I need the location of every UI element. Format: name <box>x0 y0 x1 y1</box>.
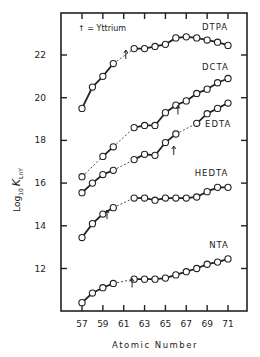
x-tick-label: 67 <box>181 319 192 329</box>
data-marker <box>152 152 158 158</box>
data-marker <box>183 98 189 104</box>
series-line <box>134 37 228 49</box>
series-line <box>134 259 228 279</box>
x-tick-label: 69 <box>201 319 213 329</box>
data-marker <box>173 35 179 41</box>
data-marker <box>131 124 137 130</box>
data-marker <box>152 122 158 128</box>
data-marker <box>194 35 200 41</box>
data-marker <box>100 153 106 159</box>
data-marker <box>204 111 210 117</box>
data-marker <box>225 100 231 106</box>
y-tick-label: 22 <box>35 50 46 60</box>
data-marker <box>214 184 220 190</box>
y-tick-label: 20 <box>35 93 47 103</box>
data-marker <box>79 300 85 306</box>
plot-border <box>61 13 247 311</box>
data-marker <box>141 45 147 51</box>
yttrium-legend-note: ↑ = Yttrium <box>78 24 126 33</box>
series-group: DTPADCTAEDTAHEDTANTA <box>79 22 231 305</box>
data-marker <box>89 84 95 90</box>
data-marker <box>131 157 137 163</box>
x-tick-label: 61 <box>118 319 129 329</box>
data-marker <box>214 80 220 86</box>
dashed-bridge <box>113 49 134 64</box>
data-marker <box>162 195 168 201</box>
plot-frame <box>61 13 247 311</box>
series-label-dcta: DCTA <box>202 62 229 72</box>
data-marker <box>194 194 200 200</box>
data-marker <box>162 275 168 281</box>
series-edta: EDTA <box>79 100 231 196</box>
x-tick-label: 65 <box>160 319 171 329</box>
data-marker <box>100 285 106 291</box>
data-marker <box>110 280 116 286</box>
data-marker <box>89 221 95 227</box>
dashed-bridge <box>113 128 134 147</box>
data-marker <box>79 190 85 196</box>
data-marker <box>204 261 210 267</box>
data-marker <box>110 60 116 66</box>
y-tick-label: 12 <box>35 264 46 274</box>
data-marker <box>173 131 179 137</box>
data-marker <box>162 41 168 47</box>
data-marker <box>194 265 200 271</box>
data-marker <box>79 105 85 111</box>
data-marker <box>100 211 106 217</box>
y-tick-label: 16 <box>35 178 47 188</box>
y-tick-label: 14 <box>35 221 47 231</box>
series-label-nta: NTA <box>209 240 229 250</box>
y-tick-label: 18 <box>35 135 47 145</box>
data-marker <box>214 39 220 45</box>
data-marker <box>162 110 168 116</box>
x-axis-title: Atomic Number <box>112 340 198 350</box>
x-tick-label: 63 <box>139 319 150 329</box>
series-label-edta: EDTA <box>205 119 231 129</box>
data-marker <box>110 205 116 211</box>
data-marker <box>183 195 189 201</box>
series-line <box>82 64 113 109</box>
data-marker <box>194 120 200 126</box>
data-marker <box>225 184 231 190</box>
data-marker <box>214 105 220 111</box>
series-line <box>134 187 228 200</box>
data-marker <box>100 171 106 177</box>
data-marker <box>141 276 147 282</box>
y-axis-title: Log10KLnY <box>10 168 24 212</box>
data-marker <box>141 195 147 201</box>
data-marker <box>194 90 200 96</box>
series-hedta: HEDTA <box>79 168 231 241</box>
data-marker <box>204 86 210 92</box>
data-marker <box>225 75 231 81</box>
x-tick-label: 59 <box>97 319 109 329</box>
data-marker <box>173 272 179 278</box>
data-marker <box>131 45 137 51</box>
data-marker <box>79 174 85 180</box>
series-line <box>82 283 113 302</box>
series-line <box>82 170 113 192</box>
data-marker <box>204 37 210 43</box>
data-marker <box>141 122 147 128</box>
data-marker <box>183 34 189 40</box>
data-marker <box>141 151 147 157</box>
series-nta: NTA <box>79 240 231 306</box>
data-marker <box>204 189 210 195</box>
x-tick-label: 57 <box>76 319 87 329</box>
data-marker <box>110 144 116 150</box>
chart-figure: 121416182022 5759616365676971 DTPADCTAED… <box>0 0 260 357</box>
data-marker <box>152 276 158 282</box>
data-marker <box>89 180 95 186</box>
data-marker <box>89 290 95 296</box>
data-marker <box>79 234 85 240</box>
data-marker <box>110 167 116 173</box>
series-label-hedta: HEDTA <box>195 168 229 178</box>
data-marker <box>214 259 220 265</box>
data-marker <box>183 269 189 275</box>
x-tick-label: 71 <box>222 319 233 329</box>
data-marker <box>131 195 137 201</box>
data-marker <box>100 73 106 79</box>
y-axis-title-log: Log <box>12 196 22 212</box>
data-marker <box>152 197 158 203</box>
y-axis-title-sub10: 10 <box>17 188 24 196</box>
y-axis-title-sublny: LnY <box>17 168 24 179</box>
